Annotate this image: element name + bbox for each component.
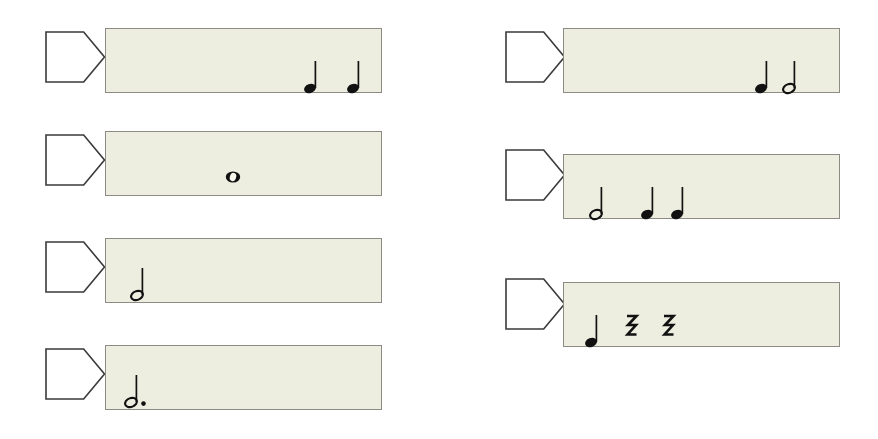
worksheet-canvas	[0, 0, 878, 439]
measure-panel-row-6[interactable]	[563, 154, 840, 219]
measure-panel-row-1[interactable]	[105, 28, 382, 93]
measure-panel-row-5[interactable]	[563, 28, 840, 93]
half-note-icon	[586, 181, 608, 225]
measure-panel-row-2[interactable]	[105, 131, 382, 196]
measure-panel-row-4[interactable]	[105, 345, 382, 410]
whole-note-icon	[222, 168, 244, 186]
quarter-note-icon	[667, 181, 689, 225]
quarter-rest-icon	[623, 312, 641, 342]
notes-layer	[564, 155, 839, 218]
notes-layer	[106, 29, 381, 92]
arrow-marker-row-4[interactable]	[44, 347, 106, 401]
half-note-icon	[127, 262, 149, 306]
arrow-marker-row-7[interactable]	[504, 277, 566, 331]
arrow-marker-row-1[interactable]	[44, 30, 106, 84]
measure-panel-row-3[interactable]	[105, 238, 382, 303]
quarter-note-icon	[751, 55, 773, 99]
arrow-marker-row-6[interactable]	[504, 148, 566, 202]
arrow-marker-row-5[interactable]	[504, 30, 566, 84]
notes-layer	[106, 346, 381, 409]
dotted-half-note-icon	[121, 369, 151, 413]
notes-layer	[106, 239, 381, 302]
quarter-note-icon	[343, 55, 365, 99]
notes-layer	[106, 132, 381, 195]
arrow-marker-row-2[interactable]	[44, 133, 106, 187]
half-note-icon	[779, 55, 801, 99]
quarter-note-icon	[581, 309, 603, 353]
quarter-note-icon	[300, 55, 322, 99]
arrow-marker-row-3[interactable]	[44, 240, 106, 294]
notes-layer	[564, 29, 839, 92]
measure-panel-row-7[interactable]	[563, 282, 840, 347]
quarter-note-icon	[637, 181, 659, 225]
notes-layer	[564, 283, 839, 346]
quarter-rest-icon	[660, 312, 678, 342]
